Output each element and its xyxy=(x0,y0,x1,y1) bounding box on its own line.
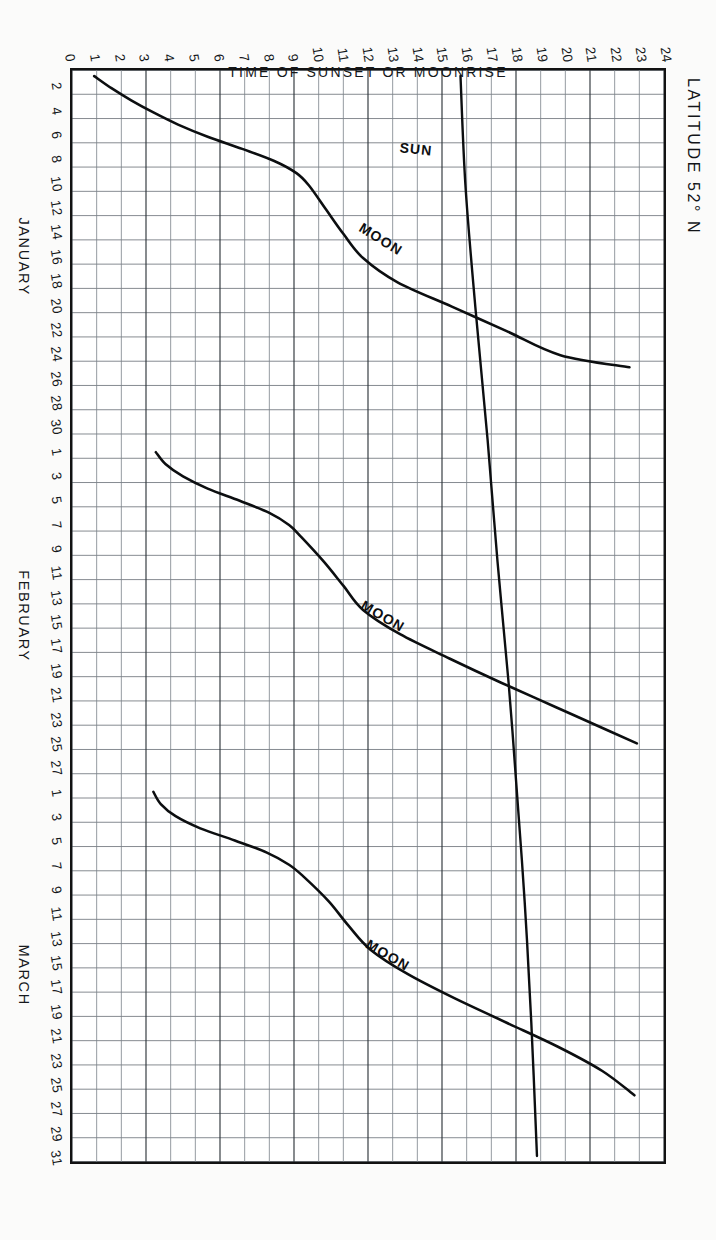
x-axis-tick: 11 xyxy=(48,906,65,923)
x-axis-tick: 27 xyxy=(48,1100,65,1118)
x-axis-tick: 24 xyxy=(48,345,65,363)
plot-area: SUN MOON MOON MOON xyxy=(70,68,666,1164)
x-axis-tick: 15 xyxy=(48,613,65,631)
y-axis-tick: 13 xyxy=(384,46,401,63)
x-axis-tick: 3 xyxy=(48,471,64,481)
y-axis-tick: 2 xyxy=(112,53,128,63)
x-axis-tick: 6 xyxy=(48,130,64,140)
x-axis-tick: 9 xyxy=(48,885,64,895)
x-axis-tick: 5 xyxy=(48,836,64,846)
x-axis-tick: 5 xyxy=(48,495,64,505)
y-axis-tick: 20 xyxy=(558,46,575,63)
y-axis-tick: 24 xyxy=(657,46,674,63)
y-axis-tick: 15 xyxy=(434,46,451,63)
y-axis-tick: 10 xyxy=(310,46,327,63)
x-axis-tick: 10 xyxy=(48,175,65,193)
y-axis-tick: 22 xyxy=(608,46,625,63)
x-axis-tick: 23 xyxy=(48,711,65,729)
x-axis-tick: 21 xyxy=(48,686,65,704)
x-axis-month-label: FEBRUARY xyxy=(16,570,32,662)
x-axis-tick: 3 xyxy=(48,812,64,822)
x-axis-tick: 17 xyxy=(48,979,65,997)
y-axis-tick: 11 xyxy=(335,47,352,63)
y-axis-tick: 9 xyxy=(286,53,302,63)
y-axis-tick: 7 xyxy=(236,53,252,63)
y-axis-tick: 16 xyxy=(459,46,476,63)
y-axis-tick: 6 xyxy=(211,53,227,63)
y-axis-tick: 19 xyxy=(533,46,550,63)
chart-title-text: LATITUDE 52° N xyxy=(685,78,702,235)
x-axis-tick: 28 xyxy=(48,394,65,412)
x-axis-tick: 2 xyxy=(48,81,64,91)
x-axis-tick: 15 xyxy=(48,954,65,972)
x-axis-tick: 17 xyxy=(48,638,65,656)
x-axis-tick: 14 xyxy=(48,224,65,242)
x-axis-month-label: JANUARY xyxy=(16,217,32,296)
y-axis-tick: 3 xyxy=(137,53,153,63)
y-axis-tick: 4 xyxy=(161,53,177,63)
x-axis-month-labels: JANUARYFEBRUARYMARCH xyxy=(6,68,32,1164)
x-axis-tick: 22 xyxy=(48,321,65,339)
x-axis-tick: 19 xyxy=(48,662,65,680)
x-axis-tick: 26 xyxy=(48,370,65,388)
x-axis-tick: 13 xyxy=(48,930,65,948)
x-axis-tick: 11 xyxy=(48,565,65,582)
y-axis-tick: 12 xyxy=(359,46,376,63)
x-axis-tick: 18 xyxy=(48,272,65,290)
x-axis-tick: 7 xyxy=(48,520,64,530)
y-axis-tick: 1 xyxy=(87,53,103,63)
x-axis-tick: 13 xyxy=(48,589,65,607)
x-axis-tick: 30 xyxy=(48,418,65,436)
y-axis-tick: 23 xyxy=(633,46,650,63)
x-axis-tick: 8 xyxy=(48,154,64,164)
x-axis-tick: 20 xyxy=(48,297,65,315)
x-axis-tick: 4 xyxy=(48,106,64,116)
y-axis-tick: 8 xyxy=(261,53,277,63)
x-axis-tick: 9 xyxy=(48,544,64,554)
y-axis-tick: 5 xyxy=(186,53,202,63)
x-axis-tick: 7 xyxy=(48,861,64,871)
x-axis-tick: 16 xyxy=(48,248,65,266)
x-axis-tick: 1 xyxy=(48,788,64,798)
x-axis-month-label: MARCH xyxy=(16,945,32,1006)
y-axis-tick-labels: 2423222120191817161514131211109876543210 xyxy=(70,10,666,66)
y-axis-tick: 17 xyxy=(484,46,501,63)
chart-title: LATITUDE 52° N xyxy=(684,78,702,235)
y-axis-tick: 21 xyxy=(583,46,600,63)
x-axis-tick: 21 xyxy=(48,1027,65,1045)
x-axis-tick: 1 xyxy=(48,447,64,457)
x-axis-tick: 23 xyxy=(48,1052,65,1070)
chart-stage: LATITUDE 52° N SUN MOON MOON MOON 246810… xyxy=(0,0,716,1240)
x-axis-tick: 25 xyxy=(48,735,65,753)
x-axis-tick: 19 xyxy=(48,1003,65,1021)
x-axis-tick-labels: 2468101214161820222426283013579111315171… xyxy=(34,68,64,1164)
x-axis-tick: 31 xyxy=(48,1149,65,1167)
y-axis-tick: 14 xyxy=(409,46,426,63)
y-axis-tick: 18 xyxy=(508,46,525,63)
x-axis-tick: 25 xyxy=(48,1076,65,1094)
y-axis-tick: 0 xyxy=(62,53,78,63)
rotated-chart-canvas: LATITUDE 52° N SUN MOON MOON MOON 246810… xyxy=(0,0,716,1240)
x-axis-tick: 12 xyxy=(48,199,65,217)
x-axis-tick: 27 xyxy=(48,759,65,777)
y-axis-title: TIME OF SUNSET OR MOONRISE xyxy=(208,64,528,80)
x-axis-tick: 29 xyxy=(48,1125,65,1143)
